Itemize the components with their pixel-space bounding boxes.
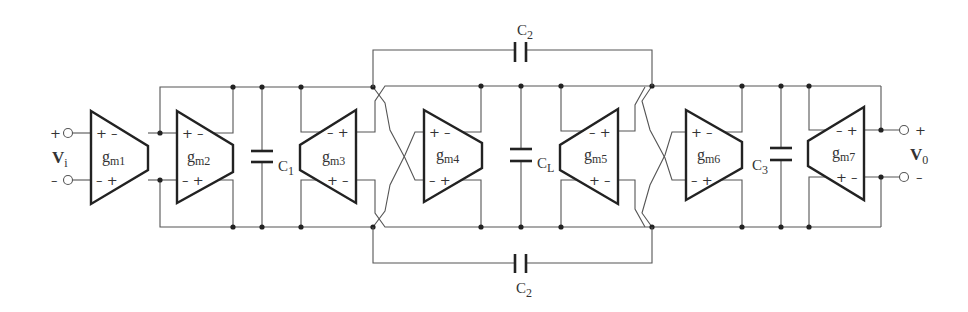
svg-text:+ –: + – — [182, 126, 204, 141]
output-minus-sign: – — [916, 170, 923, 185]
transconductor-gm1: + – – + gm1 — [91, 111, 148, 204]
output-plus-terminal — [900, 126, 909, 135]
c2-bottom-branch: C2 — [373, 227, 652, 300]
capacitor-c1: C1 — [251, 151, 294, 178]
svg-text:– +: – + — [96, 173, 118, 188]
crossover-left — [370, 84, 424, 229]
svg-text:– +: – + — [589, 125, 611, 140]
capacitor-cl: CL — [510, 149, 554, 175]
transconductor-gm7: – + + – gm7 — [808, 107, 864, 200]
circuit-diagram: + – Vi — [0, 0, 968, 312]
output-terminals: + – V0 — [900, 123, 929, 185]
input-minus-terminal — [64, 176, 73, 185]
svg-text:+ –: + – — [836, 170, 858, 185]
input-terminals: + – Vi — [50, 126, 91, 188]
capacitor-c3: C3 — [752, 148, 792, 177]
svg-text:– +: – + — [691, 173, 713, 188]
output-plus-sign: + — [915, 123, 926, 138]
svg-text:C3: C3 — [752, 157, 768, 177]
svg-text:– +: – + — [836, 123, 858, 138]
transconductor-gm5: – + + – gm5 — [560, 109, 618, 204]
svg-text:CL: CL — [537, 155, 554, 175]
svg-text:– +: – + — [327, 125, 349, 140]
output-minus-terminal — [900, 173, 909, 182]
svg-text:+ –: + – — [327, 173, 349, 188]
transconductor-gm3: – + + – gm3 — [300, 110, 356, 203]
svg-text:+ –: + – — [589, 173, 611, 188]
svg-text:C1: C1 — [278, 158, 294, 178]
svg-text:+ –: + – — [429, 125, 451, 140]
transconductor-gm6: + – – + gm6 — [686, 110, 742, 200]
input-label: Vi — [52, 148, 68, 170]
input-plus-terminal — [64, 129, 73, 138]
svg-text:+ –: + – — [691, 125, 713, 140]
c2-top-label: C2 — [517, 22, 533, 42]
output-label: V0 — [910, 145, 928, 167]
transconductor-gm2: + – – + gm2 — [177, 111, 233, 203]
svg-text:– +: – + — [429, 173, 451, 188]
input-plus-sign: + — [50, 126, 61, 141]
svg-text:+ –: + – — [96, 126, 118, 141]
svg-text:– +: – + — [182, 173, 204, 188]
transconductor-gm4: + – – + gm4 — [424, 110, 482, 202]
c2-bottom-label: C2 — [516, 280, 532, 300]
c2-top-branch: C2 — [373, 22, 652, 87]
input-minus-sign: – — [51, 173, 58, 188]
